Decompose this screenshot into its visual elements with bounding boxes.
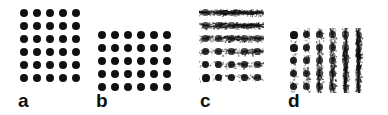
dot — [303, 83, 310, 90]
dot-cell — [238, 45, 251, 58]
dot-cell — [251, 71, 264, 84]
dot — [20, 61, 28, 69]
dot-cell — [238, 58, 251, 71]
dot-cell — [95, 54, 108, 67]
dot — [33, 35, 41, 43]
dot-cell — [199, 19, 212, 32]
dot — [59, 74, 67, 82]
dot — [356, 84, 362, 90]
dot — [329, 44, 336, 51]
dot — [215, 48, 222, 55]
dot-cell — [313, 67, 326, 80]
dot — [72, 22, 80, 30]
dot-cell — [95, 67, 108, 80]
dot — [98, 44, 106, 52]
dot-cell — [238, 6, 251, 19]
dot-cell — [147, 80, 160, 93]
dot — [255, 23, 261, 29]
dot — [59, 22, 67, 30]
dot-cell — [313, 28, 326, 41]
dot — [202, 22, 209, 29]
dot-cell — [160, 28, 173, 41]
dot — [124, 31, 132, 39]
dot — [137, 44, 145, 52]
dot — [46, 48, 54, 56]
panel-c — [199, 6, 264, 84]
dot — [356, 71, 362, 77]
dot — [33, 61, 41, 69]
dot-cell — [313, 54, 326, 67]
dot — [124, 83, 132, 91]
dot-cell — [287, 54, 300, 67]
dot-cell — [121, 41, 134, 54]
dot-cell — [134, 67, 147, 80]
panel-d-dot-grid — [287, 28, 365, 93]
dot — [150, 70, 158, 78]
dot — [46, 35, 54, 43]
panel-label-c: c — [200, 91, 211, 110]
dot-cell — [352, 80, 365, 93]
dot-cell — [326, 28, 339, 41]
dot-cell — [108, 41, 121, 54]
dot — [59, 61, 67, 69]
dot-cell — [30, 6, 43, 19]
dot-cell — [56, 45, 69, 58]
dot-cell — [17, 45, 30, 58]
dot — [342, 57, 348, 63]
dot — [137, 31, 145, 39]
dot-cell — [43, 6, 56, 19]
dot — [72, 48, 80, 56]
dot — [124, 70, 132, 78]
dot-cell — [69, 71, 82, 84]
dot-cell — [69, 6, 82, 19]
dot-cell — [121, 54, 134, 67]
dot-cell — [17, 32, 30, 45]
dot — [98, 70, 106, 78]
dot — [342, 44, 348, 50]
dot-cell — [134, 41, 147, 54]
dot-cell — [225, 71, 238, 84]
dot-cell — [56, 6, 69, 19]
dot-cell — [251, 6, 264, 19]
panel-a — [17, 6, 82, 84]
dot-cell — [43, 32, 56, 45]
dot — [228, 35, 235, 42]
dot-cell — [238, 71, 251, 84]
dot-array-figure: abcd — [0, 0, 388, 115]
dot-cell — [43, 45, 56, 58]
panel-c-dot-grid — [199, 6, 264, 84]
dot — [163, 44, 171, 52]
dot-cell — [17, 19, 30, 32]
dot — [216, 10, 222, 16]
dot-cell — [30, 58, 43, 71]
dot — [163, 31, 171, 39]
dot-cell — [30, 19, 43, 32]
dot-cell — [287, 41, 300, 54]
dot — [290, 57, 298, 65]
dot — [254, 74, 261, 81]
dot — [163, 57, 171, 65]
dot — [241, 74, 249, 82]
dot-cell — [43, 71, 56, 84]
dot-cell — [199, 45, 212, 58]
dot — [137, 70, 145, 78]
dot — [98, 57, 106, 65]
dot-cell — [108, 80, 121, 93]
dot-cell — [56, 19, 69, 32]
dot-cell — [326, 80, 339, 93]
dot — [20, 22, 28, 30]
panel-a-dot-grid — [17, 6, 82, 84]
dot — [215, 22, 221, 28]
dot-cell — [287, 28, 300, 41]
dot-cell — [108, 54, 121, 67]
dot-cell — [69, 19, 82, 32]
dot — [202, 61, 210, 69]
dot-cell — [225, 58, 238, 71]
dot — [98, 31, 106, 39]
dot-cell — [300, 80, 313, 93]
dot — [59, 9, 67, 17]
dot — [33, 9, 41, 17]
dot — [202, 35, 209, 42]
panel-label-d: d — [288, 91, 300, 110]
dot-cell — [238, 32, 251, 45]
